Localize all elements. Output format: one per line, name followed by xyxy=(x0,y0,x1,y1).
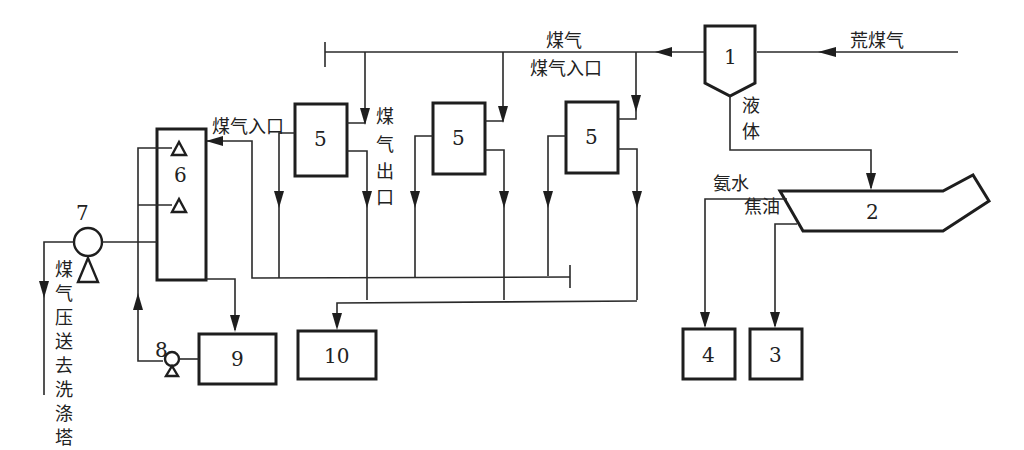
gas-outlet-label-2: 气 xyxy=(376,134,394,155)
unit-3-number: 3 xyxy=(769,343,782,367)
unit-2-number: 2 xyxy=(866,200,879,224)
arrow-up-icon xyxy=(133,293,143,310)
gas-out-line-c xyxy=(548,136,566,276)
to-washer-char: 压 xyxy=(55,307,73,328)
diagram-svg: 荒煤气 1 煤气 煤气入口 液 体 2 氨水 焦油 4 3 xyxy=(0,0,1024,450)
to-washer-char: 塔 xyxy=(55,427,73,448)
gas-inlet-label-left: 煤气入口 xyxy=(212,116,284,137)
arrow-left-icon xyxy=(206,136,223,146)
unit-8-number: 8 xyxy=(155,338,168,362)
gas-label: 煤气 xyxy=(546,30,582,51)
liquid-label-1: 液 xyxy=(742,95,760,116)
condensate-line xyxy=(332,301,637,330)
arrow-left-icon xyxy=(818,47,836,57)
unit-5-cooler-b: 5 xyxy=(433,103,485,174)
gas-outlet-label-3: 出 xyxy=(376,161,394,182)
arrow-down-icon xyxy=(362,191,372,208)
unit-10-tank: 10 xyxy=(298,331,376,379)
tar-line xyxy=(770,224,797,328)
to-washer-label: 煤 气 压 送 去 洗 涤 塔 xyxy=(55,259,73,448)
arrow-down-icon xyxy=(866,173,876,190)
unit-9-tank: 9 xyxy=(199,334,276,384)
unit-5a-number: 5 xyxy=(314,127,327,151)
unit-5c-number: 5 xyxy=(585,125,598,149)
gas-outlet-label-1: 煤 xyxy=(376,106,394,127)
unit-4-number: 4 xyxy=(702,343,715,367)
arrow-left-icon xyxy=(655,47,672,57)
unit-7-number: 7 xyxy=(76,201,89,225)
unit-4-tank: 4 xyxy=(683,329,735,379)
gas-inlet-label: 煤气入口 xyxy=(530,58,602,79)
gas-outlet-label-4: 口 xyxy=(376,187,394,208)
unit-7-blower: 7 xyxy=(74,201,102,282)
to-washer-char: 去 xyxy=(55,355,73,376)
gas-out-line-a xyxy=(279,133,295,278)
gas-out-line-b xyxy=(415,136,433,278)
to-washer-char: 涤 xyxy=(55,403,73,424)
gas-header-line xyxy=(325,42,705,67)
arrow-down-icon xyxy=(332,313,342,330)
unit-6-number: 6 xyxy=(174,163,187,187)
arrow-down-icon xyxy=(410,191,420,208)
arrow-down-icon xyxy=(274,191,284,208)
unit-5-cooler-c: 5 xyxy=(566,102,618,173)
outlet-line-c xyxy=(618,149,637,300)
to-washer-char: 洗 xyxy=(55,379,73,400)
unit-3-tank: 3 xyxy=(750,329,802,379)
unit-2-decanter: 2 xyxy=(780,175,989,231)
ammonia-water-line xyxy=(700,199,787,328)
unit-10-number: 10 xyxy=(324,344,349,368)
to-washer-char: 煤 xyxy=(55,259,73,280)
to-washer-char: 气 xyxy=(55,283,73,304)
drain-line-6-to-9 xyxy=(206,279,235,330)
unit-5-cooler-a: 5 xyxy=(295,104,347,176)
ammonia-water-label: 氨水 xyxy=(713,173,749,194)
raw-gas-label: 荒煤气 xyxy=(850,30,904,51)
gas-in-line-c xyxy=(618,52,636,119)
to-washer-char: 送 xyxy=(55,331,73,352)
unit-1-number: 1 xyxy=(724,45,737,69)
process-flow-diagram: 荒煤气 1 煤气 煤气入口 液 体 2 氨水 焦油 4 3 xyxy=(0,0,1024,450)
unit-8-pump: 8 xyxy=(155,338,199,376)
arrow-down-icon xyxy=(543,191,553,208)
arrow-down-icon xyxy=(631,95,641,112)
unit-5b-number: 5 xyxy=(452,126,465,150)
liquid-label-2: 体 xyxy=(742,121,760,142)
arrow-down-icon xyxy=(770,312,780,328)
arrow-down-icon xyxy=(39,281,49,298)
unit-9-number: 9 xyxy=(231,347,244,371)
arrow-down-icon xyxy=(499,191,509,208)
arrow-down-icon xyxy=(230,315,240,332)
arrow-down-icon xyxy=(632,191,642,208)
unit-1-separator: 1 xyxy=(705,26,755,96)
gas-collector-line xyxy=(206,136,570,288)
arrow-down-icon xyxy=(700,312,710,328)
